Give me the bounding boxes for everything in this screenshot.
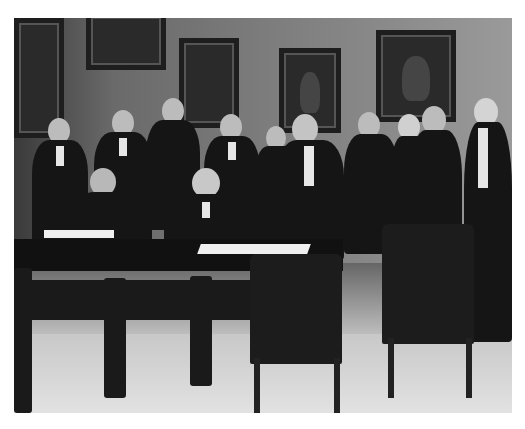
papers-left xyxy=(44,230,114,238)
chair-front xyxy=(250,254,342,364)
document xyxy=(197,244,311,254)
chair-right xyxy=(382,224,474,344)
portrait-frame-top xyxy=(86,18,166,70)
photograph xyxy=(14,18,512,413)
portrait-frame-right xyxy=(376,30,456,122)
